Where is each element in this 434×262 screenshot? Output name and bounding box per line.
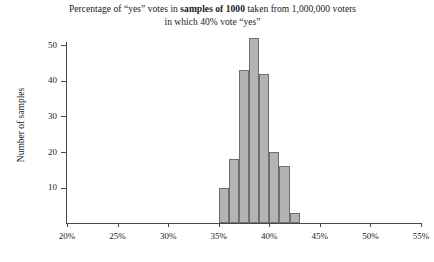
y-axis-tick-label: 50 <box>31 41 57 50</box>
x-axis-tick-label: 55% <box>401 231 434 241</box>
x-axis-tick <box>168 223 169 227</box>
histogram-bar <box>259 74 269 224</box>
x-axis-tick <box>67 223 68 227</box>
y-axis-tick-label: 40 <box>31 76 57 85</box>
y-axis-tick <box>61 81 66 82</box>
histogram-bar <box>279 166 289 223</box>
histogram-bar <box>239 70 249 224</box>
x-axis-tick-label: 30% <box>148 231 188 241</box>
x-axis-tick-label: 25% <box>98 231 138 241</box>
x-axis-tick-label: 50% <box>350 231 390 241</box>
x-axis-tick-label: 20% <box>47 231 87 241</box>
histogram-bar <box>229 159 239 223</box>
y-axis-title: Number of samples <box>16 65 26 185</box>
x-axis-tick <box>269 223 270 227</box>
y-axis-tick <box>61 116 66 117</box>
x-axis-tick <box>118 223 119 227</box>
y-axis-tick <box>61 152 66 153</box>
histogram-bar <box>290 213 300 224</box>
y-axis-tick-label: 20 <box>31 148 57 157</box>
x-axis-tick <box>370 223 371 227</box>
y-axis-tick <box>61 45 66 46</box>
histogram-bar <box>269 152 279 223</box>
y-axis-tick-label: 10 <box>31 183 57 192</box>
x-axis-tick-label: 35% <box>199 231 239 241</box>
histogram-bar <box>249 38 259 224</box>
y-axis-tick-label: 30 <box>31 112 57 121</box>
y-axis-tick <box>61 188 66 189</box>
x-axis-tick <box>219 223 220 227</box>
x-axis-tick <box>421 223 422 227</box>
histogram-bar <box>219 188 229 224</box>
y-axis-line <box>66 42 67 224</box>
x-axis-tick-label: 45% <box>300 231 340 241</box>
x-axis-tick <box>320 223 321 227</box>
x-axis-tick-label: 40% <box>249 231 289 241</box>
